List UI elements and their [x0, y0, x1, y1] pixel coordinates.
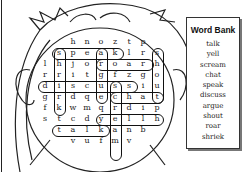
- grid-letter: f: [38, 102, 52, 113]
- grid-letter: l: [38, 58, 52, 69]
- grid-letter: c: [108, 91, 122, 102]
- grid-letter: d: [80, 113, 94, 124]
- word-bank-item: speak: [187, 80, 239, 90]
- grid-letter: l: [122, 47, 136, 58]
- grid-letter: u: [94, 80, 108, 91]
- grid-letter: a: [122, 58, 136, 69]
- grid-letter: l: [122, 113, 136, 124]
- grid-letter: u: [150, 80, 164, 91]
- grid-letter: r: [94, 58, 108, 69]
- grid-letter: i: [136, 80, 150, 91]
- grid-letter: l: [80, 124, 94, 135]
- grid-letter: h: [122, 91, 136, 102]
- grid-letter: n: [80, 36, 94, 47]
- grid-letter: z: [108, 36, 122, 47]
- grid-letter: o: [80, 58, 94, 69]
- grid-letter: s: [38, 113, 52, 124]
- grid-letter: p: [150, 102, 164, 113]
- grid-letter: t: [52, 124, 66, 135]
- grid-letter: h: [66, 36, 80, 47]
- grid-letter: z: [122, 69, 136, 80]
- grid-letter: a: [66, 124, 80, 135]
- grid-letter: h: [150, 113, 164, 124]
- word-bank-item: roar: [187, 121, 239, 131]
- grid-letter: n: [122, 124, 136, 135]
- grid-letter: r: [38, 69, 52, 80]
- grid-letter: b: [136, 124, 150, 135]
- word-bank-item: talk: [187, 39, 239, 49]
- word-bank-title: Word Bank: [187, 25, 239, 35]
- grid-letter: r: [52, 69, 66, 80]
- grid-letter: d: [66, 91, 80, 102]
- grid-letter: i: [52, 80, 66, 91]
- word-bank-item: shout: [187, 111, 239, 121]
- grid-letter: t: [122, 36, 136, 47]
- grid-letter: i: [136, 102, 150, 113]
- grid-letter: f: [94, 135, 108, 146]
- grid-letter: o: [150, 69, 164, 80]
- grid-letter: k: [52, 102, 66, 113]
- grid-letter: e: [94, 91, 108, 102]
- grid-letter: o: [94, 36, 108, 47]
- grid-letter: a: [108, 124, 122, 135]
- grid-letter: j: [66, 58, 80, 69]
- grid-letter: t: [150, 91, 164, 102]
- grid-letter: c: [66, 113, 80, 124]
- grid-letter: p: [136, 36, 150, 47]
- grid-letter: g: [136, 69, 150, 80]
- word-bank-panel: Word Bank talk yell scream chat speak di…: [186, 17, 240, 149]
- word-bank-item: shriek: [187, 132, 239, 142]
- grid-letter: h: [150, 58, 164, 69]
- grid-letter: o: [108, 58, 122, 69]
- grid-letter: i: [66, 69, 80, 80]
- grid-letter: u: [80, 135, 94, 146]
- grid-letter: a: [94, 47, 108, 58]
- grid-letter: f: [108, 69, 122, 80]
- grid-letter: m: [80, 102, 94, 113]
- word-bank-item: scream: [187, 60, 239, 70]
- grid-letter: d: [38, 80, 52, 91]
- grid-letter: a: [136, 91, 150, 102]
- grid-letter: m: [108, 135, 122, 146]
- grid-letter: e: [80, 47, 94, 58]
- grid-letter: r: [52, 91, 66, 102]
- grid-letter: q: [80, 91, 94, 102]
- word-bank-item: yell: [187, 49, 239, 59]
- word-bank-item: chat: [187, 70, 239, 80]
- grid-letter: s: [122, 80, 136, 91]
- grid-letter: s: [52, 47, 66, 58]
- grid-letter: w: [66, 102, 80, 113]
- grid-letter: c: [80, 80, 94, 91]
- word-bank-item: argue: [187, 101, 239, 111]
- word-bank-item: discuss: [187, 90, 239, 100]
- grid-letter: s: [66, 80, 80, 91]
- grid-letter: l: [136, 113, 150, 124]
- grid-letter: v: [66, 135, 80, 146]
- grid-letter: p: [66, 47, 80, 58]
- grid-letter: e: [108, 113, 122, 124]
- grid-letter: q: [94, 102, 108, 113]
- grid-letter: d: [122, 102, 136, 113]
- grid-letter: r: [136, 58, 150, 69]
- grid-letter: s: [108, 80, 122, 91]
- grid-letter: k: [94, 124, 108, 135]
- grid-letter: s: [150, 47, 164, 58]
- grid-letter: r: [136, 47, 150, 58]
- grid-letter: v: [122, 135, 136, 146]
- grid-letter: y: [94, 113, 108, 124]
- word-bank-list: talk yell scream chat speak discuss argu…: [187, 39, 239, 142]
- grid-letter: g: [94, 69, 108, 80]
- grid-letter: h: [52, 58, 66, 69]
- grid-letter: g: [38, 91, 52, 102]
- grid-letter: t: [52, 113, 66, 124]
- grid-letter: t: [80, 69, 94, 80]
- grid-letter: r: [108, 102, 122, 113]
- grid-letter: k: [108, 47, 122, 58]
